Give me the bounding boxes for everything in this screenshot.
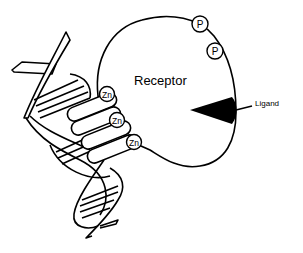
phosphate-label-2: P <box>212 46 219 57</box>
zn-label-1: Zn <box>102 90 112 100</box>
phosphate-label-1: P <box>197 19 204 30</box>
receptor-dna-diagram: Zn Zn Zn P P Receptor Ligand <box>0 0 303 253</box>
zn-label-3: Zn <box>129 138 139 148</box>
ligand-pointer-line <box>236 106 252 110</box>
zn-label-2: Zn <box>112 116 122 126</box>
ligand-label: Ligand <box>255 99 279 108</box>
receptor-label: Receptor <box>134 73 187 88</box>
